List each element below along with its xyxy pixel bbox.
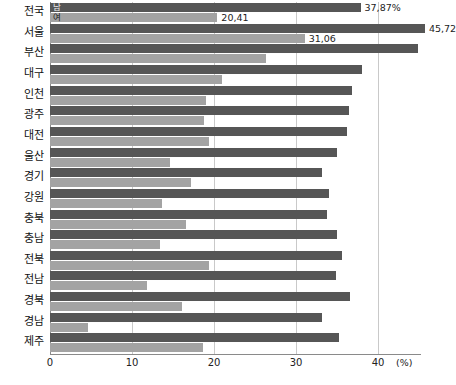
category-label-충북: 충북 [0, 213, 44, 224]
bar-부산-남 [50, 44, 418, 53]
bar-row: 경북 [0, 292, 421, 311]
bar-row: 강원 [0, 189, 421, 208]
bar-경북-여 [50, 302, 182, 311]
bar-경북-남 [50, 292, 350, 301]
bar-전국-여 [50, 13, 217, 22]
bar-충남-남 [50, 230, 337, 239]
category-label-충남: 충남 [0, 233, 44, 244]
category-label-강원: 강원 [0, 192, 44, 203]
bar-row: 서울45,7231,06 [0, 24, 421, 43]
bar-경남-남 [50, 313, 322, 322]
bar-광주-남 [50, 106, 349, 115]
bar-강원-여 [50, 199, 162, 208]
category-label-부산: 부산 [0, 47, 44, 58]
bar-제주-남 [50, 333, 339, 342]
bar-row: 충남 [0, 230, 421, 249]
category-label-경북: 경북 [0, 295, 44, 306]
category-label-대전: 대전 [0, 130, 44, 141]
bar-row: 경기 [0, 168, 421, 187]
bar-전북-남 [50, 251, 342, 260]
bar-대구-남 [50, 65, 362, 74]
bar-대구-여 [50, 75, 222, 84]
bar-row: 부산 [0, 44, 421, 63]
category-label-서울: 서울 [0, 27, 44, 38]
bar-울산-여 [50, 158, 170, 167]
bar-value-전국-남: 37,87% [365, 3, 401, 12]
bar-강원-남 [50, 189, 329, 198]
bar-row: 인천 [0, 86, 421, 105]
x-tick-20: 20 [208, 358, 221, 368]
category-label-전국: 전국 [0, 6, 44, 17]
legend-tag-여: 여 [53, 13, 61, 22]
category-label-제주: 제주 [0, 336, 44, 347]
bar-대전-남 [50, 127, 347, 136]
bar-제주-여 [50, 343, 203, 352]
x-tick-10: 10 [126, 358, 139, 368]
category-label-인천: 인천 [0, 89, 44, 100]
bar-충남-여 [50, 240, 160, 249]
bar-전북-여 [50, 261, 209, 270]
bar-부산-여 [50, 54, 266, 63]
bar-value-서울-여: 31,06 [309, 34, 336, 43]
bar-충북-여 [50, 220, 186, 229]
x-axis-ticks: 010203040 [0, 358, 421, 372]
chart-footnote [2, 376, 202, 384]
bar-row: 울산 [0, 148, 421, 167]
category-label-광주: 광주 [0, 109, 44, 120]
category-label-경남: 경남 [0, 316, 44, 327]
category-label-전북: 전북 [0, 254, 44, 265]
bar-울산-남 [50, 148, 337, 157]
bar-서울-남 [50, 24, 425, 33]
bar-전남-여 [50, 281, 147, 290]
bar-대전-여 [50, 137, 209, 146]
bar-전국-남 [50, 3, 361, 12]
bar-row: 충북 [0, 210, 421, 229]
bar-row: 전북 [0, 251, 421, 270]
x-tick-40: 40 [372, 358, 385, 368]
bar-value-서울-남: 45,72 [429, 24, 456, 33]
bar-row: 대구 [0, 65, 421, 84]
x-axis-unit-label: (%) [396, 358, 412, 368]
category-label-전남: 전남 [0, 274, 44, 285]
bar-row: 경남 [0, 313, 421, 332]
category-label-울산: 울산 [0, 151, 44, 162]
category-label-경기: 경기 [0, 171, 44, 182]
bar-경기-여 [50, 178, 191, 187]
bar-row: 제주 [0, 333, 421, 352]
bar-경남-여 [50, 323, 88, 332]
bar-충북-남 [50, 210, 327, 219]
bar-서울-여 [50, 34, 305, 43]
bar-row: 대전 [0, 127, 421, 146]
bar-전남-남 [50, 271, 336, 280]
bar-row: 전국남37,87%여20,41 [0, 3, 421, 22]
x-tick-30: 30 [290, 358, 303, 368]
bar-경기-남 [50, 168, 322, 177]
legend-tag-남: 남 [53, 3, 61, 12]
bar-인천-남 [50, 86, 352, 95]
category-label-대구: 대구 [0, 68, 44, 79]
bar-인천-여 [50, 96, 206, 105]
bar-value-전국-여: 20,41 [221, 13, 248, 22]
bar-row: 광주 [0, 106, 421, 125]
x-tick-0: 0 [47, 358, 53, 368]
bar-row: 전남 [0, 271, 421, 290]
bar-광주-여 [50, 116, 204, 125]
